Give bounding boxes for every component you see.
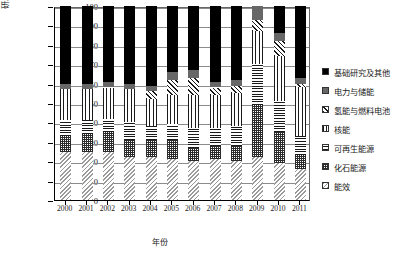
bar-segment: [295, 87, 306, 136]
legend-swatch-icon: [322, 106, 329, 113]
bar-segment: [82, 6, 93, 84]
bar-segment: [82, 152, 93, 201]
gridline: [55, 144, 309, 145]
legend-label: 氢能与燃料电池: [334, 104, 390, 116]
y-axis-tick-mark: [48, 46, 53, 47]
x-axis-tick-mark: [171, 201, 172, 205]
x-axis-tick-label: 2011: [284, 204, 314, 213]
legend-item: 化石能源: [322, 157, 414, 176]
gridline: [55, 163, 309, 164]
bar-segment: [60, 120, 71, 136]
bar-column: [82, 6, 93, 200]
bar-segment: [167, 159, 178, 200]
y-axis-title: 研发示范经费占比/%: [0, 0, 10, 38]
bar-segment: [252, 6, 263, 20]
bar-segment: [167, 124, 178, 140]
bar-segment: [252, 31, 263, 64]
x-axis-tick-mark: [65, 201, 66, 205]
bar-segment: [188, 70, 199, 78]
bar-segment: [210, 82, 221, 88]
bar-segment: [231, 161, 242, 200]
plot-area: [54, 7, 310, 201]
bar-segment: [82, 89, 93, 120]
bar-segment: [231, 126, 242, 145]
legend-label: 基础研究及其他: [334, 66, 390, 78]
y-axis-tick-mark: [48, 201, 53, 202]
y-axis-tick-mark: [48, 26, 53, 27]
bar-segment: [274, 56, 285, 101]
legend-swatch-icon: [322, 182, 329, 189]
bar-column: [274, 6, 285, 200]
y-axis-tick-mark: [48, 143, 53, 144]
gridline: [55, 66, 309, 67]
bar-column: [295, 6, 306, 200]
legend-swatch-icon: [322, 87, 329, 94]
bar-segment: [231, 86, 242, 94]
bar-column: [167, 6, 178, 200]
legend-label: 可再生能源: [334, 142, 374, 154]
y-axis-tick-mark: [48, 123, 53, 124]
bar-column: [60, 6, 71, 200]
bar-segment: [146, 6, 157, 86]
legend-label: 核能: [334, 123, 350, 135]
gridline: [55, 47, 309, 48]
bar-segment: [295, 84, 306, 88]
bar-segment: [82, 134, 93, 151]
legend-item: 氢能与燃料电池: [322, 100, 414, 119]
y-axis-tick-mark: [48, 104, 53, 105]
bar-segment: [167, 140, 178, 159]
legend-swatch-icon: [322, 68, 329, 75]
bar-segment: [124, 89, 135, 122]
gridline: [55, 124, 309, 125]
bar-segment: [274, 33, 285, 41]
x-axis-tick-mark: [214, 201, 215, 205]
bar-segment: [252, 157, 263, 200]
bar-segment: [60, 136, 71, 152]
bar-segment: [103, 88, 114, 119]
gridline: [55, 86, 309, 87]
bar-segment: [167, 6, 178, 72]
bar-segment: [252, 20, 263, 32]
bar-segment: [124, 122, 135, 139]
x-axis-title: 年份: [0, 236, 320, 247]
bar-segment: [274, 132, 285, 163]
bar-segment: [188, 95, 199, 128]
bar-segment: [210, 88, 221, 96]
bar-column: [188, 6, 199, 200]
y-axis-title-text: 研发示范经费占比/%: [0, 0, 10, 38]
bar-column: [210, 6, 221, 200]
bar-segment: [231, 146, 242, 162]
gridline: [55, 105, 309, 106]
legend-item: 基础研究及其他: [322, 62, 414, 81]
x-axis-tick-mark: [86, 201, 87, 205]
x-axis-tick-mark: [278, 201, 279, 205]
legend-swatch-icon: [322, 125, 329, 132]
bar-segment: [231, 6, 242, 80]
legend-swatch-icon: [322, 144, 329, 151]
legend: 基础研究及其他电力与储能氢能与燃料电池核能可再生能源化石能源能效: [322, 62, 414, 195]
bar-column: [252, 6, 263, 200]
bar-column: [103, 6, 114, 200]
x-axis-tick-mark: [257, 201, 258, 205]
legend-item: 核能: [322, 119, 414, 138]
legend-item: 电力与储能: [322, 81, 414, 100]
y-axis-tick-mark: [48, 182, 53, 183]
bar-segment: [60, 89, 71, 120]
x-axis-tick-mark: [150, 201, 151, 205]
bar-segment: [274, 41, 285, 57]
bar-segment: [188, 161, 199, 200]
x-axis-tick-mark: [299, 201, 300, 205]
bar-segment: [167, 95, 178, 124]
bar-segment: [295, 155, 306, 169]
bar-segment: [274, 6, 285, 33]
bar-segment: [188, 148, 199, 162]
bar-segment: [295, 136, 306, 155]
bar-column: [231, 6, 242, 200]
legend-label: 化石能源: [334, 161, 366, 173]
bar-segment: [82, 84, 93, 90]
bar-segment: [103, 6, 114, 82]
gridline: [55, 8, 309, 9]
bar-segment: [188, 78, 199, 95]
bar-segment: [295, 6, 306, 78]
bar-segment: [295, 169, 306, 200]
